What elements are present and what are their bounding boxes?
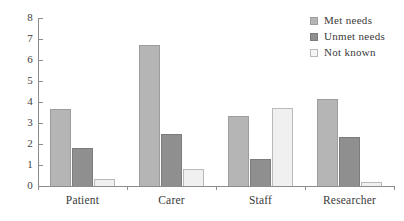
y-axis-tick-label: 6 (5, 54, 33, 65)
unmet-needs-swatch (310, 33, 318, 41)
legend-item-label: Met needs (324, 15, 372, 26)
x-axis-tick (38, 186, 39, 190)
y-axis-tick-label: 0 (5, 180, 33, 191)
bar-group (228, 18, 293, 186)
x-axis-category-label: Researcher (305, 194, 394, 207)
bar-group (139, 18, 204, 186)
bar (272, 108, 293, 186)
legend-item-label: Not known (324, 47, 376, 58)
y-axis-tick-label: 4 (5, 96, 33, 107)
x-axis-category-label: Carer (127, 194, 216, 207)
x-axis-tick (127, 186, 128, 190)
bar (250, 159, 271, 186)
bar (50, 109, 71, 186)
chart-legend: Met needsUnmet needsNot known (310, 14, 385, 59)
y-axis-tick-label: 8 (5, 12, 33, 23)
bar (72, 148, 93, 186)
legend-item-label: Unmet needs (324, 31, 385, 42)
not-known-swatch (310, 49, 318, 57)
x-axis-category-label: Staff (216, 194, 305, 207)
x-axis-tick (305, 186, 306, 190)
y-axis-tick-label: 2 (5, 138, 33, 149)
bar (183, 169, 204, 186)
bar (139, 45, 160, 186)
x-axis-tick (394, 186, 395, 190)
bar (361, 182, 382, 186)
x-axis-category-label: Patient (38, 194, 127, 207)
y-axis-tick-label: 5 (5, 75, 33, 86)
bar (339, 137, 360, 186)
legend-item[interactable]: Met needs (310, 14, 385, 27)
y-axis-labels: 012345678 (0, 0, 33, 221)
bar-chart: 012345678 PatientCarerStaffResearcher Me… (0, 0, 404, 221)
bar (94, 179, 115, 186)
bar (317, 99, 338, 186)
x-axis-tick (216, 186, 217, 190)
y-axis-tick-label: 7 (5, 33, 33, 44)
legend-item[interactable]: Not known (310, 46, 385, 59)
legend-item[interactable]: Unmet needs (310, 30, 385, 43)
met-needs-swatch (310, 17, 318, 25)
y-axis-tick-label: 3 (5, 117, 33, 128)
bar (161, 134, 182, 187)
bar-group (50, 18, 115, 186)
y-axis-tick-label: 1 (5, 159, 33, 170)
bar (228, 116, 249, 186)
